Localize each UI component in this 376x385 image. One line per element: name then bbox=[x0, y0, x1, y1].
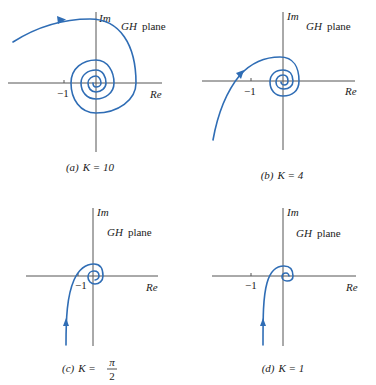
real-axis-label: Re bbox=[149, 88, 162, 100]
nyquist-curve bbox=[213, 57, 299, 140]
real-axis-label: Re bbox=[344, 85, 357, 97]
real-axis-label: Re bbox=[145, 281, 158, 293]
imag-axis-label: Im bbox=[96, 206, 109, 218]
direction-arrow bbox=[63, 318, 69, 326]
caption: (a)K = 10 bbox=[66, 161, 115, 174]
tick-label: −1 bbox=[75, 279, 87, 291]
plane-label: GHplane bbox=[306, 20, 351, 32]
caption: (d)K = 1 bbox=[262, 362, 305, 375]
panel-d: −1 Im Re GHplane (d)K = 1 bbox=[212, 206, 358, 375]
nyquist-curve bbox=[13, 19, 136, 113]
nyquist-curve bbox=[263, 266, 293, 345]
tick-label: −1 bbox=[244, 85, 256, 97]
caption: (b)K = 4 bbox=[261, 169, 304, 182]
tick-label: −1 bbox=[57, 87, 69, 99]
panel-b: −1 Im Re GHplane (b)K = 4 bbox=[202, 10, 357, 182]
plane-label: GHplane bbox=[296, 227, 341, 239]
caption-fraction-denominator: 2 bbox=[109, 370, 115, 382]
imag-axis-label: Im bbox=[286, 10, 299, 22]
nyquist-figure: −1 Im Re GHplane (a)K = 10 −1 Im Re GHpl… bbox=[0, 0, 376, 385]
real-axis-label: Re bbox=[345, 281, 358, 293]
imag-axis-label: Im bbox=[286, 206, 299, 218]
plane-label: GHplane bbox=[107, 226, 152, 238]
plane-label: GHplane bbox=[121, 20, 166, 32]
caption: (c)K = bbox=[62, 362, 96, 375]
direction-arrow bbox=[57, 16, 66, 24]
tick-label: −1 bbox=[245, 279, 257, 291]
panel-c: −1 Im Re GHplane (c)K = π 2 bbox=[26, 206, 158, 382]
panel-a: −1 Im Re GHplane (a)K = 10 bbox=[8, 12, 166, 174]
caption-fraction-numerator: π bbox=[109, 356, 115, 368]
direction-arrow bbox=[260, 318, 266, 326]
